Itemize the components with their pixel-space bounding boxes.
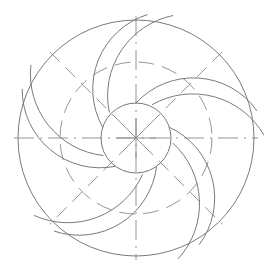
star-spoke <box>136 124 150 138</box>
blade-edge <box>30 65 103 156</box>
star-spoke <box>136 138 150 152</box>
blade-edge <box>173 143 200 259</box>
star-spoke <box>122 138 136 152</box>
blade-edge <box>34 174 143 222</box>
impeller-drawing <box>0 0 264 275</box>
hub-center-star <box>116 118 156 158</box>
star-spoke <box>122 124 136 138</box>
blade-edge <box>22 89 115 168</box>
blades <box>22 15 264 259</box>
diagram-canvas <box>0 0 264 275</box>
blade-edge <box>169 127 214 245</box>
